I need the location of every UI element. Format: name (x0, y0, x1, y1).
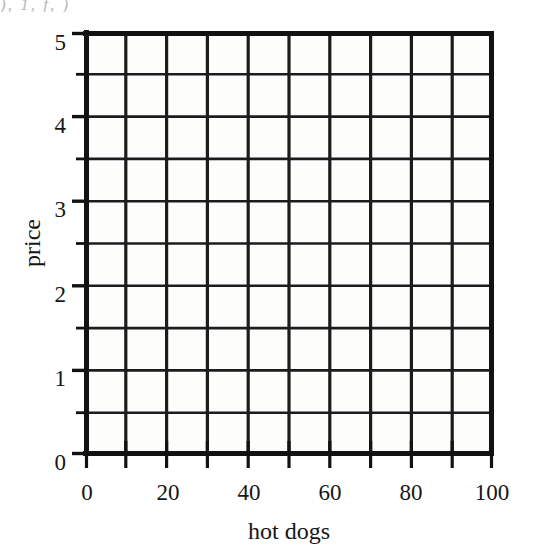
plot-area (0, 0, 533, 560)
y-tick-label: 3 (40, 198, 66, 221)
y-tick-label: 5 (40, 31, 66, 54)
y-tick-label: 0 (40, 451, 66, 474)
x-tick-label: 80 (400, 481, 423, 504)
x-tick-label: 0 (81, 481, 93, 504)
y-tick-label: 4 (40, 114, 66, 137)
y-tick-label: 2 (40, 283, 66, 306)
x-tick-label: 100 (475, 481, 510, 504)
x-tick-label: 20 (157, 481, 180, 504)
y-axis-title: price (20, 219, 44, 267)
y-tick-label: 1 (40, 367, 66, 390)
x-axis-title: hot dogs (248, 519, 330, 543)
x-tick-label: 40 (238, 481, 261, 504)
x-tick-label: 60 (319, 481, 342, 504)
y-axis-ticks (72, 34, 86, 454)
graph-figure: 5 4 3 2 1 0 0 20 40 60 80 100 hot dogs p… (0, 0, 533, 560)
